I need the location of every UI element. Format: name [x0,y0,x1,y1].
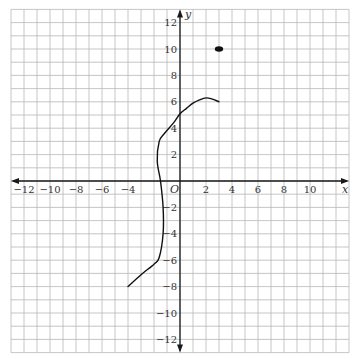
y-tick-label: −12 [156,334,177,345]
y-tick-label: 12 [164,17,177,28]
origin-label: O [170,183,179,196]
x-axis-label: x [342,183,349,196]
x-tick-label: 8 [281,184,287,195]
x-tick-label: 2 [203,184,209,195]
y-tick-label: −4 [162,228,177,239]
isolated-point [215,46,223,52]
axes [11,9,349,352]
x-tick-label: −10 [39,184,60,195]
y-tick-label: −2 [162,202,177,213]
x-tick-label: 10 [304,184,317,195]
x-tick-label: 4 [229,184,235,195]
x-tick-label: −4 [121,184,136,195]
arrow-down-icon [177,345,183,353]
y-tick-label: 6 [171,96,177,107]
x-tick-label: 6 [255,184,261,195]
coordinate-plane: −12−10−8−6−424681012108642−2−4−6−8−10−12… [0,0,353,362]
y-tick-label: 2 [171,149,177,160]
x-tick-label: −8 [69,184,84,195]
y-tick-label: −10 [156,308,177,319]
y-tick-label: 8 [171,70,177,81]
plotted-series [128,46,223,286]
y-tick-label: −6 [162,255,177,266]
x-tick-label: −6 [95,184,110,195]
y-tick-label: −8 [162,281,177,292]
y-axis-label: y [184,8,192,21]
x-tick-label: −12 [13,184,34,195]
y-tick-label: 10 [164,44,177,55]
arrow-up-icon [177,9,183,17]
